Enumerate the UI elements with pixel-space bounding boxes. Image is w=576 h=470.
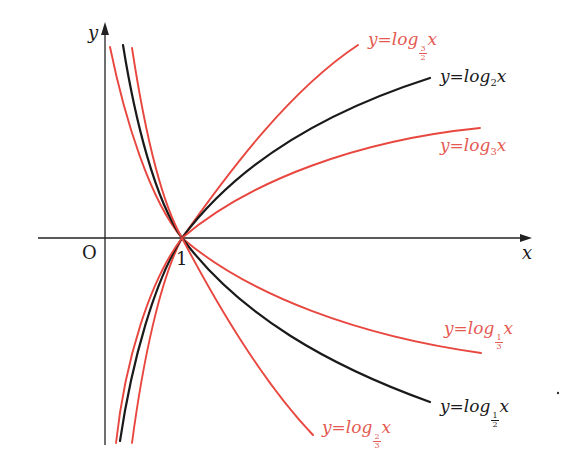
label-prefix: y=log	[368, 29, 418, 49]
label-log-2-3: y=log23x	[322, 419, 391, 444]
label-var: x	[428, 29, 438, 49]
curves	[110, 45, 481, 443]
x-axis-label: x	[522, 244, 532, 262]
label-prefix: y=log	[444, 318, 494, 338]
label-prefix: y=log	[440, 396, 490, 416]
base-fraction: 32	[419, 45, 426, 62]
base-fraction: 12	[491, 412, 498, 429]
origin-label: O	[82, 244, 97, 262]
base-denominator: 3	[496, 343, 501, 351]
curve-log-2-3	[116, 238, 313, 443]
curve-log-1-2	[120, 238, 430, 441]
label-prefix: y=log	[322, 417, 372, 437]
label-prefix: y=log	[440, 135, 490, 155]
base-denominator: 2	[492, 421, 497, 429]
x-axis-arrow-icon	[520, 234, 532, 242]
base-fraction: 23	[373, 433, 380, 450]
base-subscript: 2	[490, 77, 496, 88]
curve-log-3	[132, 48, 480, 238]
label-log-1-2: y=log12x	[440, 398, 509, 423]
label-var: x	[497, 135, 507, 155]
label-prefix: y=log	[440, 66, 490, 86]
tick-one-label: 1	[176, 250, 187, 268]
label-log-3-2: y=log32x	[368, 31, 437, 56]
curve-log-3-2	[110, 45, 358, 238]
base-denominator: 2	[420, 54, 425, 62]
y-axis-arrow-icon	[101, 22, 109, 35]
base-subscript: 3	[490, 146, 496, 157]
base-denominator: 3	[374, 442, 379, 450]
label-var: x	[382, 417, 392, 437]
label-var: x	[500, 396, 510, 416]
y-axis-label: y	[88, 24, 98, 42]
label-var: x	[504, 318, 514, 338]
base-fraction: 13	[495, 334, 502, 351]
label-log-3: y=log3x	[440, 137, 506, 154]
label-log-1-3: y=log13x	[444, 320, 513, 345]
label-log-2: y=log2x	[440, 68, 506, 85]
stray-dot	[557, 392, 559, 394]
label-var: x	[497, 66, 507, 86]
